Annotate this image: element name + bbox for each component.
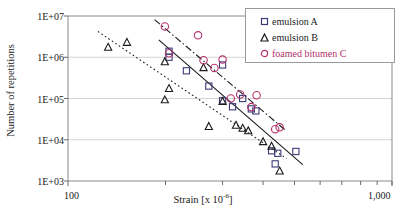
square-marker-icon	[258, 17, 271, 26]
data-point-triangle	[161, 58, 168, 65]
y-axis-title: Number of repetitions	[2, 0, 18, 180]
data-point-triangle	[239, 124, 246, 131]
circle-marker-icon	[258, 49, 271, 58]
data-point-triangle	[276, 167, 283, 174]
legend-item-emulsion-b: emulsion B	[258, 29, 394, 45]
y-tick-label: 1E+03	[37, 176, 64, 187]
data-point-square	[272, 161, 278, 167]
y-tick-label: 1E+04	[37, 134, 64, 145]
data-point-triangle	[123, 38, 130, 45]
legend-item-foamed-bitumen-c: foamed bitumen C	[258, 45, 394, 61]
legend-label-emulsion-b: emulsion B	[272, 32, 318, 43]
y-tick-label: 1E+06	[37, 52, 64, 63]
y-tick-label: 1E+05	[37, 93, 64, 104]
legend-label-foamed-bitumen-c: foamed bitumen C	[272, 48, 346, 59]
data-point-triangle	[232, 121, 239, 128]
data-point-triangle	[165, 85, 172, 92]
y-tick-label: 1E+07	[37, 11, 64, 22]
legend-label-emulsion-a: emulsion A	[272, 16, 318, 27]
data-point-square	[183, 68, 189, 74]
chart-legend: emulsion A emulsion B foamed bitumen C	[245, 8, 395, 63]
data-point-triangle	[259, 138, 266, 145]
data-point-circle	[253, 92, 260, 99]
data-point-triangle	[161, 96, 168, 103]
data-point-triangle	[105, 43, 112, 50]
data-point-square	[253, 108, 259, 114]
data-point-square	[275, 150, 281, 156]
legend-item-emulsion-a: emulsion A	[258, 13, 394, 29]
triangle-marker-icon	[258, 33, 271, 42]
x-axis-title: Strain [x 10-6]	[0, 192, 406, 205]
data-point-square	[229, 104, 235, 110]
data-point-circle	[194, 32, 201, 39]
chart-figure: Number of repetitions 1E+031E+041E+051E+…	[0, 0, 406, 219]
data-point-triangle	[205, 123, 212, 130]
data-point-circle	[271, 126, 278, 133]
data-point-triangle	[200, 64, 207, 71]
data-point-square	[293, 148, 299, 154]
